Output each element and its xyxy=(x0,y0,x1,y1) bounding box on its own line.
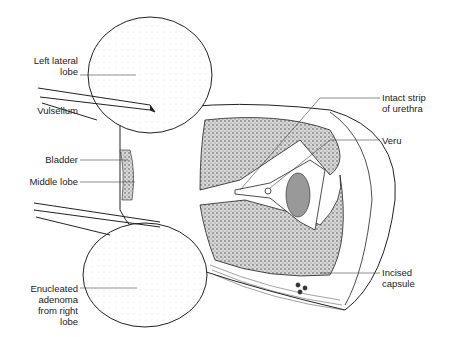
label-vulsellum: Vulsellum xyxy=(10,105,78,116)
label-bladder: Bladder xyxy=(10,154,78,165)
label-left-lateral-lobe: Left lateral lobe xyxy=(20,55,78,77)
diagram-canvas: Left lateral lobe Vulsellum Bladder Midd… xyxy=(0,0,451,337)
label-enucleated-adenoma: Enucleated adenoma from right lobe xyxy=(10,283,78,327)
verumontanum xyxy=(265,188,271,194)
label-intact-strip-urethra: Intact strip of urethra xyxy=(382,92,426,114)
label-veru: Veru xyxy=(382,135,402,146)
label-middle-lobe: Middle lobe xyxy=(5,176,78,187)
label-incised-capsule: Incised capsule xyxy=(382,267,415,289)
enucleated-adenoma xyxy=(83,223,207,327)
